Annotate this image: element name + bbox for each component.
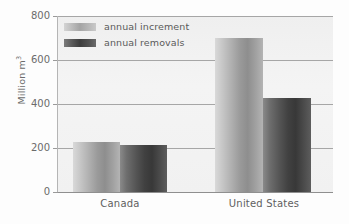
bar-canada-annual-increment [73, 142, 120, 192]
x-axis-labels: Canada United States [58, 198, 333, 218]
bar-chart: Million m3 800 600 400 200 0 annual incr… [0, 0, 349, 224]
bar-united-states-annual-increment [215, 38, 263, 192]
gridline-800 [58, 16, 333, 17]
y-tick-label-800: 800 [31, 11, 50, 21]
x-axis-line [58, 192, 333, 193]
bar-united-states-annual-removals [263, 98, 311, 192]
bar-canada-annual-removals [120, 145, 167, 192]
legend-label-annual-removals: annual removals [104, 37, 185, 48]
y-axis-ticks: 800 600 400 200 0 [0, 0, 54, 224]
y-tick-label-400: 400 [31, 99, 50, 109]
y-tick-label-200: 200 [31, 143, 50, 153]
legend-swatch-icon-annual-increment [64, 23, 96, 31]
legend-label-annual-increment: annual increment [104, 21, 189, 32]
legend-swatch-icon-annual-removals [64, 39, 96, 47]
chart-legend: annual increment annual removals [64, 20, 224, 52]
gridline-600 [58, 60, 333, 61]
y-tick-label-600: 600 [31, 55, 50, 65]
y-tick-label-0: 0 [44, 187, 50, 197]
legend-item-annual-increment: annual increment [64, 20, 224, 33]
x-axis-label-united-states: United States [200, 198, 328, 209]
legend-item-annual-removals: annual removals [64, 36, 224, 49]
x-axis-label-canada: Canada [58, 198, 182, 209]
